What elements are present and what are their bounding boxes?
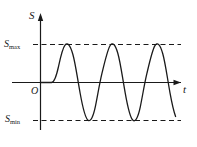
y-axis-label: S [29, 10, 35, 21]
smin-tick-label: Smin [5, 114, 20, 124]
t-axis-arrowhead [174, 80, 182, 86]
waveform-figure: S t O Smax Smin [0, 0, 197, 147]
plot-canvas [0, 0, 197, 147]
origin-label: O [31, 86, 38, 96]
smin-subscript: min [10, 118, 20, 125]
smax-subscript: max [9, 43, 20, 50]
s-axis-arrowhead [38, 13, 43, 21]
x-axis-label: t [183, 84, 186, 95]
smax-tick-label: Smax [4, 39, 20, 49]
